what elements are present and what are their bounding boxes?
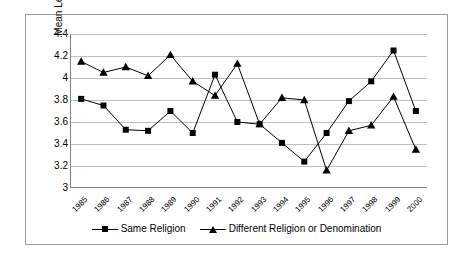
chart-legend: Same Religion Different Religion or Deno…: [26, 224, 447, 234]
x-axis-tick-label: 1991: [201, 195, 223, 217]
y-axis-tick-label: 3.2: [54, 161, 68, 171]
legend-label-different-religion: Different Religion or Denomination: [229, 224, 382, 234]
legend-entry-same-religion: Same Religion: [92, 224, 186, 234]
x-axis-tick-label: 1986: [90, 195, 112, 217]
y-axis-tick-label: 3: [62, 183, 68, 193]
data-point-square: [145, 128, 151, 134]
data-point-square: [100, 103, 106, 109]
x-axis-tick-label: 1993: [246, 195, 268, 217]
x-axis-tick-label: 1985: [68, 195, 90, 217]
data-point-triangle: [278, 94, 286, 101]
data-point-square: [123, 127, 129, 133]
data-point-triangle: [233, 60, 241, 67]
data-point-square: [212, 72, 218, 78]
y-axis-tick-label: 4.2: [54, 51, 68, 61]
square-marker-icon: [92, 225, 118, 234]
data-point-triangle: [122, 63, 130, 70]
data-point-square: [190, 130, 196, 136]
y-axis-tick-label: 3.4: [54, 139, 68, 149]
data-point-square: [234, 119, 240, 125]
data-point-triangle: [389, 93, 397, 100]
x-axis-tick-label: 1987: [112, 195, 134, 217]
triangle-marker-icon: [200, 225, 226, 234]
data-point-square: [78, 96, 84, 102]
data-point-square: [279, 140, 285, 146]
data-point-square: [301, 159, 307, 165]
x-axis-tick-label: 1992: [224, 195, 246, 217]
x-axis-tick-label: 1994: [268, 195, 290, 217]
series-line-different-religion: [81, 55, 416, 170]
x-axis-tick-label: 1988: [135, 195, 157, 217]
plot-area: [70, 34, 427, 188]
data-point-square: [391, 48, 397, 54]
y-axis-tick-labels: 4.44.243.83.63.43.23: [26, 34, 68, 188]
data-point-square: [413, 108, 419, 114]
x-axis-tick-label: 1999: [380, 195, 402, 217]
chart-canvas: [70, 34, 427, 188]
legend-entry-different-religion: Different Religion or Denomination: [200, 224, 382, 234]
y-axis-tick-label: 3.6: [54, 117, 68, 127]
data-point-triangle: [412, 145, 420, 152]
data-point-square: [324, 130, 330, 136]
x-axis-tick-label: 1990: [179, 195, 201, 217]
data-point-square: [167, 108, 173, 114]
x-axis-tick-label: 2000: [402, 195, 424, 217]
data-point-triangle: [77, 57, 85, 64]
data-point-square: [346, 98, 352, 104]
legend-label-same-religion: Same Religion: [121, 224, 186, 234]
data-point-triangle: [322, 166, 330, 173]
y-axis-tick-label: 3.8: [54, 95, 68, 105]
x-axis-tick-label: 1995: [291, 195, 313, 217]
x-axis-tick-label: 1997: [335, 195, 357, 217]
x-axis-tick-label: 1996: [313, 195, 335, 217]
data-point-triangle: [211, 91, 219, 98]
data-point-square: [368, 78, 374, 84]
x-axis-tick-label: 1989: [157, 195, 179, 217]
y-axis-tick-label: 4: [62, 73, 68, 83]
x-axis-tick-label: 1998: [358, 195, 380, 217]
data-point-triangle: [166, 51, 174, 58]
y-axis-tick-label: 4.4: [54, 29, 68, 39]
chart-frame: Mean Level of Rebellion 4.44.243.83.63.4…: [25, 14, 448, 245]
